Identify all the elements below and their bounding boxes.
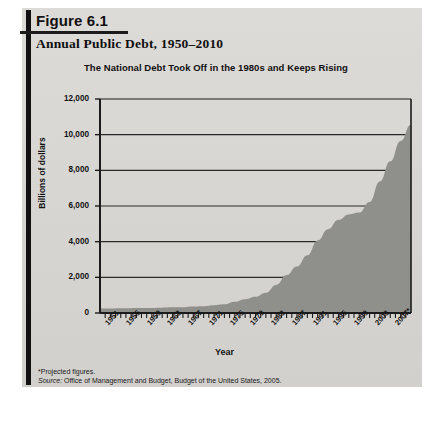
y-tick-label: 10,000 (45, 130, 89, 139)
debt-area-series (100, 125, 411, 313)
footnote-source: Source: Office of Management and Budget,… (38, 377, 282, 384)
y-tick-label: 2,000 (45, 272, 89, 281)
x-axis-title: Year (215, 347, 234, 357)
source-text: Office of Management and Budget, Budget … (64, 377, 281, 384)
chart-canvas (0, 0, 443, 421)
chart: Billions of dollars Year 02,0004,0006,00… (0, 0, 443, 421)
y-tick-label: 6,000 (45, 201, 89, 210)
footnote-projected: *Projected figures. (38, 368, 95, 375)
figure-root: Figure 6.1 Annual Public Debt, 1950–2010… (0, 0, 443, 421)
source-label: Source: (38, 377, 62, 384)
y-tick-label: 4,000 (45, 237, 89, 246)
y-tick-label: 8,000 (45, 165, 89, 174)
y-tick-label: 12,000 (45, 94, 89, 103)
y-tick-label: 0 (45, 308, 89, 317)
